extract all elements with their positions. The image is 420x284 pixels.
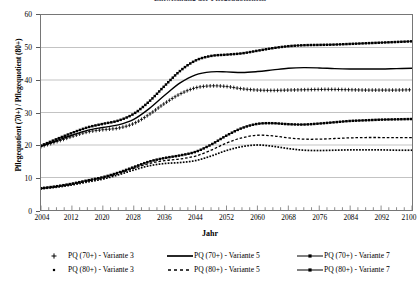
series-square-marker — [342, 120, 344, 122]
series-square-marker — [306, 44, 308, 46]
series-square-marker — [153, 95, 155, 97]
series-dot-marker — [408, 149, 410, 151]
series-square-marker — [155, 158, 157, 160]
chart-title: Entwicklung der Pflegequotienten — [0, 0, 420, 1]
series-square-marker — [46, 142, 48, 144]
series-square-marker — [125, 116, 127, 118]
series-dot-marker — [389, 149, 391, 151]
series-square-marker — [307, 123, 309, 125]
series-square-marker — [281, 123, 283, 125]
series-square-marker — [165, 156, 167, 158]
legend-item[interactable]: PQ (80+) - Variante 5 — [166, 263, 296, 277]
series-square-marker — [303, 44, 305, 46]
series-square-marker — [211, 143, 213, 145]
series-square-marker — [394, 41, 396, 43]
series-square-marker — [213, 54, 215, 56]
series-square-marker — [134, 165, 136, 167]
series-square-marker — [171, 155, 173, 157]
series-square-marker — [107, 122, 109, 124]
series-square-marker — [265, 48, 267, 50]
series-square-marker — [52, 139, 54, 141]
series-square-marker — [104, 122, 106, 124]
series-dot-marker — [235, 147, 237, 149]
series-dot-marker — [292, 148, 294, 150]
series-square-marker — [277, 122, 279, 124]
series-square-marker — [229, 53, 231, 55]
series-dot-marker — [250, 145, 252, 147]
series-dot-marker — [371, 149, 373, 151]
legend-symbol-solid-line — [166, 249, 194, 263]
series-square-marker — [374, 119, 376, 121]
series-dot-marker — [265, 145, 267, 147]
series-square-marker — [365, 119, 367, 121]
series-square-marker — [368, 42, 370, 44]
series-square-marker — [181, 154, 183, 156]
series-square-marker — [239, 52, 241, 54]
series-square-marker — [252, 50, 254, 52]
series-square-marker — [387, 41, 389, 43]
y-tick-label: 40 — [24, 75, 32, 84]
series-square-marker — [261, 122, 263, 124]
series-square-marker — [252, 123, 254, 125]
series-square-marker — [271, 122, 273, 124]
series-square-marker — [390, 118, 392, 120]
series-square-marker — [70, 132, 72, 134]
series-square-marker — [97, 124, 99, 126]
series-square-marker — [410, 118, 412, 120]
series-square-marker — [101, 123, 103, 125]
line-with-square-marker-icon — [296, 249, 324, 263]
legend-item[interactable]: PQ (80+) - Variante 3 — [40, 263, 168, 277]
series-square-marker — [407, 118, 409, 120]
legend-symbol-dot-marker — [40, 263, 68, 277]
legend-label: PQ (70+) - Variante 7 — [324, 249, 390, 263]
series-square-marker — [336, 43, 338, 45]
series-square-marker — [329, 43, 331, 45]
legend-item[interactable]: PQ (80+) - Variante 7 — [296, 263, 416, 277]
legend-item[interactable]: PQ (70+) - Variante 5 — [166, 249, 296, 263]
series-square-marker — [287, 123, 289, 125]
y-tick-label: 60 — [24, 10, 32, 19]
series-square-marker — [348, 43, 350, 45]
series-square-marker — [287, 45, 289, 47]
series-square-marker — [246, 51, 248, 53]
series-dot-marker — [341, 149, 343, 151]
series-square-marker — [234, 130, 236, 132]
series-line — [41, 41, 412, 145]
series-square-marker — [397, 41, 399, 43]
series-square-marker — [149, 99, 151, 101]
series-square-marker — [193, 151, 195, 153]
series-dot-marker — [301, 149, 303, 151]
series-square-marker — [268, 122, 270, 124]
series-square-marker — [323, 44, 325, 46]
series-square-marker — [113, 120, 115, 122]
x-tick-label: 2036 — [157, 213, 172, 222]
series-square-marker — [217, 139, 219, 141]
legend-column-3: PQ (70+) - Variante 7PQ (80+) - Variante… — [296, 249, 416, 279]
series-square-marker — [384, 41, 386, 43]
series-dot-marker — [353, 149, 355, 151]
series-square-marker — [403, 40, 405, 42]
legend-item[interactable]: PQ (70+) - Variante 3 — [40, 249, 168, 263]
series-square-marker — [175, 155, 177, 157]
series-square-marker — [326, 44, 328, 46]
series-square-marker — [400, 41, 402, 43]
series-dot-marker — [156, 164, 158, 166]
series-square-marker — [294, 123, 296, 125]
series-square-marker — [284, 45, 286, 47]
series-square-marker — [233, 53, 235, 55]
y-tick-label: 20 — [24, 141, 32, 150]
series-dot-marker — [150, 165, 152, 167]
series-square-marker — [131, 166, 133, 168]
series-dot-marker — [218, 152, 220, 154]
series-square-marker — [88, 126, 90, 128]
series-square-marker — [310, 44, 312, 46]
x-tick-label: 2084 — [343, 213, 358, 222]
legend-item[interactable]: PQ (70+) - Variante 7 — [296, 249, 416, 263]
series-dot-marker — [274, 146, 276, 148]
series-square-marker — [323, 122, 325, 124]
series-square-marker — [84, 180, 86, 182]
series-square-marker — [75, 182, 77, 184]
series-square-marker — [410, 40, 412, 42]
series-dot-marker — [198, 159, 200, 161]
series-dot-marker — [332, 149, 334, 151]
